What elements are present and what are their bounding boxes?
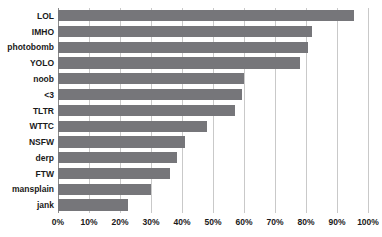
bar-row: [58, 71, 368, 87]
x-tick-label-90%: 90%: [328, 217, 345, 227]
bar-chart: LOLIMHOphotobombYOLOnoob<3TLTRWTTCNSFWde…: [0, 0, 382, 237]
bar-WTTC: [58, 121, 207, 132]
x-tick-label-70%: 70%: [266, 217, 283, 227]
bar-TLTR: [58, 105, 235, 116]
bars-layer: [58, 8, 368, 213]
bar-row: [58, 134, 368, 150]
bar-jank: [58, 199, 128, 210]
bar-row: [58, 150, 368, 166]
y-tick-label-jank: jank: [0, 200, 54, 210]
bar-row: [58, 40, 368, 56]
bar-row: [58, 24, 368, 40]
y-tick-label-<3: <3: [0, 90, 54, 100]
y-tick-label-derp: derp: [0, 153, 54, 163]
plot-area: [58, 8, 368, 213]
y-tick-label-NSFW: NSFW: [0, 137, 54, 147]
bar-derp: [58, 152, 177, 163]
bar-row: [58, 103, 368, 119]
y-tick-label-WTTC: WTTC: [0, 121, 54, 131]
x-tick-label-50%: 50%: [204, 217, 221, 227]
x-tick-label-80%: 80%: [297, 217, 314, 227]
bar-photobomb: [58, 42, 308, 53]
bar-row: [58, 118, 368, 134]
bar-row: [58, 55, 368, 71]
x-tick-label-100%: 100%: [357, 217, 379, 227]
y-tick-label-noob: noob: [0, 74, 54, 84]
bar-LOL: [58, 10, 354, 21]
y-tick-label-photobomb: photobomb: [0, 42, 54, 52]
bar-row: [58, 8, 368, 24]
bar-row: [58, 87, 368, 103]
bar-YOLO: [58, 57, 300, 68]
x-axis-tick-labels: 0%10%20%30%40%50%60%70%80%90%100%: [58, 217, 368, 231]
x-tick-label-30%: 30%: [142, 217, 159, 227]
x-tick-label-60%: 60%: [235, 217, 252, 227]
bar-NSFW: [58, 136, 185, 147]
x-tick-label-20%: 20%: [111, 217, 128, 227]
bar-<3: [58, 89, 242, 100]
bar-row: [58, 197, 368, 213]
bar-row: [58, 181, 368, 197]
y-tick-label-FTW: FTW: [0, 169, 54, 179]
x-tick-label-10%: 10%: [80, 217, 97, 227]
y-tick-label-LOL: LOL: [0, 11, 54, 21]
bar-FTW: [58, 168, 170, 179]
gridline-100%: [368, 8, 369, 213]
bar-IMHO: [58, 26, 312, 37]
bar-mansplain: [58, 184, 151, 195]
x-tick-label-0%: 0%: [52, 217, 64, 227]
y-tick-label-IMHO: IMHO: [0, 27, 54, 37]
x-tick-label-40%: 40%: [173, 217, 190, 227]
bar-row: [58, 166, 368, 182]
y-tick-label-TLTR: TLTR: [0, 106, 54, 116]
y-tick-label-mansplain: mansplain: [0, 184, 54, 194]
bar-noob: [58, 73, 244, 84]
y-tick-label-YOLO: YOLO: [0, 58, 54, 68]
y-axis-tick-labels: LOLIMHOphotobombYOLOnoob<3TLTRWTTCNSFWde…: [0, 8, 54, 213]
